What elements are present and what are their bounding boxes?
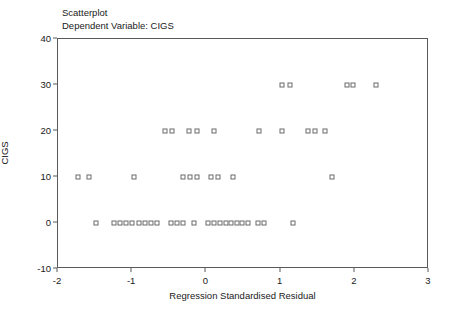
data-point <box>373 83 378 88</box>
chart-title-block: Scatterplot Dependent Variable: CIGS <box>62 6 174 32</box>
data-point <box>323 129 328 134</box>
data-point <box>262 221 267 226</box>
data-point <box>351 83 356 88</box>
data-point <box>245 221 250 226</box>
data-point <box>188 175 193 180</box>
x-tick-mark <box>279 268 280 272</box>
data-point <box>257 129 262 134</box>
x-tick-label: -1 <box>116 275 146 286</box>
data-point <box>142 221 147 226</box>
data-point <box>211 221 216 226</box>
data-point <box>211 129 216 134</box>
data-point <box>131 175 136 180</box>
data-point <box>205 221 210 226</box>
data-point <box>194 129 199 134</box>
x-tick-mark <box>428 268 429 272</box>
data-point <box>174 221 179 226</box>
data-point <box>76 175 81 180</box>
x-axis-label: Regression Standardised Residual <box>57 290 428 301</box>
data-point <box>180 175 185 180</box>
data-point <box>186 129 191 134</box>
data-point <box>136 221 141 226</box>
data-point <box>256 221 261 226</box>
data-point <box>191 221 196 226</box>
x-tick-label: 1 <box>265 275 295 286</box>
chart-subtitle: Dependent Variable: CIGS <box>62 19 174 32</box>
x-tick-mark <box>131 268 132 272</box>
data-point <box>228 221 233 226</box>
data-point <box>291 221 296 226</box>
data-point <box>312 129 317 134</box>
chart-title: Scatterplot <box>62 6 174 19</box>
data-point <box>93 221 98 226</box>
x-tick-label: -2 <box>42 275 72 286</box>
data-point <box>216 175 221 180</box>
data-point <box>111 221 116 226</box>
data-point <box>194 175 199 180</box>
data-point <box>148 221 153 226</box>
y-tick-mark <box>53 84 57 85</box>
x-tick-mark <box>57 268 58 272</box>
x-tick-label: 0 <box>190 275 220 286</box>
y-tick-mark <box>53 176 57 177</box>
y-tick-label: 20 <box>21 125 51 136</box>
data-point <box>117 221 122 226</box>
x-tick-mark <box>205 268 206 272</box>
y-tick-label: 0 <box>21 217 51 228</box>
data-point <box>287 83 292 88</box>
data-point <box>123 221 128 226</box>
x-tick-mark <box>353 268 354 272</box>
data-point <box>154 221 159 226</box>
y-tick-label: 30 <box>21 79 51 90</box>
x-tick-label: 2 <box>339 275 369 286</box>
y-tick-label: -10 <box>21 263 51 274</box>
data-point <box>168 221 173 226</box>
y-tick-label: 10 <box>21 171 51 182</box>
y-axis-label: CIGS <box>0 141 10 164</box>
data-point <box>169 129 174 134</box>
y-tick-mark <box>53 130 57 131</box>
data-point <box>344 83 349 88</box>
y-tick-mark <box>53 222 57 223</box>
data-point <box>130 221 135 226</box>
plot-area <box>57 38 428 268</box>
data-point <box>217 221 222 226</box>
y-tick-label: 40 <box>21 33 51 44</box>
data-point <box>280 129 285 134</box>
data-points-layer <box>58 39 427 267</box>
data-point <box>162 129 167 134</box>
y-tick-mark <box>53 38 57 39</box>
data-point <box>87 175 92 180</box>
data-point <box>240 221 245 226</box>
scatterplot-figure: Scatterplot Dependent Variable: CIGS CIG… <box>0 0 453 317</box>
data-point <box>329 175 334 180</box>
x-tick-label: 3 <box>413 275 443 286</box>
data-point <box>180 221 185 226</box>
data-point <box>231 175 236 180</box>
data-point <box>208 175 213 180</box>
data-point <box>280 83 285 88</box>
data-point <box>306 129 311 134</box>
